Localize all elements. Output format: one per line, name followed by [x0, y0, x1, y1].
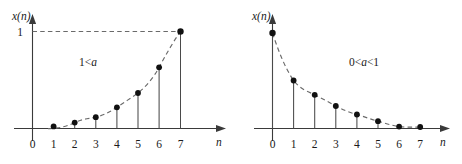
left-x-tick-label-4: 4 [114, 138, 120, 150]
left-x-tick-label-1: 1 [51, 138, 57, 150]
left-point-n3 [93, 114, 99, 120]
left-y-axis-label: x(n) [11, 10, 31, 23]
right-point-n6 [396, 124, 402, 130]
right-point-n2 [312, 92, 318, 98]
right-x-axis-arrowhead [440, 125, 450, 132]
left-point-n1 [51, 124, 57, 130]
right-annotation: 0<a<1 [349, 56, 379, 68]
right-annotation-prefix: 0< [349, 56, 361, 68]
right-x-tick-label-7: 7 [417, 138, 423, 150]
left-annotation-prefix: 1< [79, 56, 91, 68]
left-envelope-curve [48, 32, 181, 129]
panel-right-decaying-exponential: x(n) 0 1 2 3 4 5 6 7 n 0<a<1 [251, 10, 450, 150]
right-x-tick-label-6: 6 [396, 138, 402, 150]
right-x-tick-label-4: 4 [354, 138, 360, 150]
left-x-tick-label-6: 6 [156, 138, 162, 150]
right-point-n5 [375, 118, 381, 124]
left-x-axis-label: n [216, 136, 222, 148]
left-point-n6 [156, 64, 162, 70]
right-y-axis-label: x(n) [251, 10, 271, 23]
left-x-tick-label-5: 5 [135, 138, 141, 150]
right-x-tick-label-0: 0 [270, 138, 276, 150]
figure-container: x(n) 1 0 1 2 3 4 5 6 7 n 1<a [0, 0, 462, 164]
left-annotation: 1<a [79, 56, 97, 68]
left-x-tick-label-7: 7 [178, 138, 184, 150]
right-x-tick-label-1: 1 [291, 138, 297, 150]
left-point-n7 [177, 28, 183, 34]
right-x-tick-label-5: 5 [375, 138, 381, 150]
left-y-tick-label-1: 1 [17, 26, 23, 38]
left-point-n4 [114, 104, 120, 110]
right-x-axis-label: n [440, 136, 446, 148]
right-point-n1 [291, 78, 297, 84]
left-x-tick-label-3: 3 [93, 138, 99, 150]
right-point-n3 [333, 103, 339, 109]
right-x-tick-label-2: 2 [312, 138, 318, 150]
right-x-tick-label-3: 3 [333, 138, 339, 150]
left-x-tick-label-0: 0 [30, 138, 36, 150]
right-point-n7 [417, 124, 423, 130]
right-annotation-suffix: <1 [367, 56, 379, 68]
exponential-sequences-figure: x(n) 1 0 1 2 3 4 5 6 7 n 1<a [0, 0, 462, 164]
left-x-tick-label-2: 2 [72, 138, 78, 150]
left-point-n5 [135, 90, 141, 96]
panel-left-growing-exponential: x(n) 1 0 1 2 3 4 5 6 7 n 1<a [11, 10, 226, 150]
left-annotation-variable: a [91, 56, 97, 68]
right-point-n0 [269, 30, 275, 36]
left-point-n2 [72, 120, 78, 126]
right-point-n4 [354, 112, 360, 118]
left-x-axis-arrowhead [216, 125, 226, 132]
